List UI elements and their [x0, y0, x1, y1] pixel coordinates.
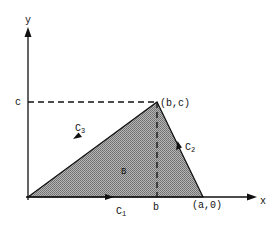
region-diagram: y x c b (b,c) (a,0) B C1 C2 C3 [0, 0, 279, 229]
b-tick-label: b [153, 202, 159, 213]
c1-label: C1 [116, 206, 126, 218]
c3-label: C3 [75, 123, 85, 135]
x-axis-label: x [260, 196, 266, 207]
region-label: B [121, 167, 127, 177]
x-axis-arrow-icon [247, 194, 257, 201]
c2-label: C2 [185, 142, 195, 154]
y-axis-arrow-icon [25, 27, 32, 37]
y-axis-label: y [25, 15, 31, 26]
right-vertex-label: (a,0) [192, 200, 222, 211]
c-tick-label: c [15, 97, 21, 108]
apex-label: (b,c) [160, 98, 190, 109]
